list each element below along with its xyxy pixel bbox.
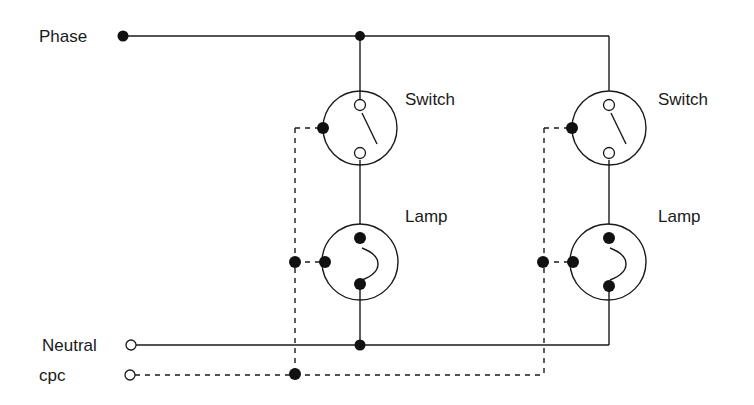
phase-label: Phase (39, 28, 87, 45)
wiring-diagram (0, 0, 754, 405)
neutral-label: Neutral (42, 337, 97, 354)
neutral-junction (355, 340, 366, 351)
switch-2-label: Switch (658, 91, 708, 108)
cpc-label: cpc (39, 367, 65, 384)
lamp-1-top-terminal (354, 232, 366, 244)
switch-1-bottom-contact (355, 148, 366, 159)
switch-2-bottom-contact (604, 148, 615, 159)
lamp-1-filament (362, 248, 378, 280)
switch-1-blade (362, 113, 377, 144)
phase-junction (355, 31, 365, 41)
lamp-2-top-terminal (603, 232, 615, 244)
switch-2-blade (611, 113, 626, 144)
lamp-2-earth-terminal (567, 256, 579, 268)
cpc-main-junction (289, 368, 301, 380)
cpc-terminal (125, 370, 135, 380)
switch-2-earth-terminal (566, 122, 578, 134)
phase-terminal (118, 31, 129, 42)
cpc-junction-2 (537, 256, 549, 268)
lamp-2-bottom-terminal (603, 280, 615, 292)
lamp-2-filament (610, 248, 626, 280)
lamp-2-label: Lamp (658, 208, 701, 225)
switch-1-top-contact (355, 100, 366, 111)
switch-2-top-contact (604, 100, 615, 111)
lamp-1-label: Lamp (405, 208, 448, 225)
switch-1-label: Switch (405, 91, 455, 108)
switch-1-earth-terminal (317, 122, 329, 134)
lamp-1-earth-terminal (319, 256, 331, 268)
lamp-1-bottom-terminal (354, 278, 366, 290)
neutral-terminal (126, 340, 136, 350)
cpc-junction-1 (289, 256, 301, 268)
